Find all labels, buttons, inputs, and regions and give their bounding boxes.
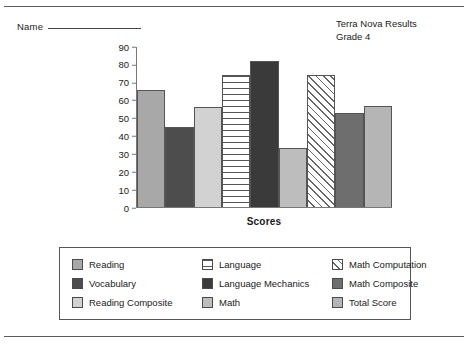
chart-bar xyxy=(194,107,222,207)
y-axis-tick-label: 50 xyxy=(118,114,132,124)
legend-label: Reading Composite xyxy=(89,298,172,308)
chart-bar xyxy=(165,127,193,207)
legend-swatch xyxy=(332,278,343,289)
name-write-in-line[interactable] xyxy=(48,28,141,29)
chart-plot-area: 0102030405060708090 xyxy=(136,47,392,208)
y-axis-tick-label: 90 xyxy=(118,42,132,52)
y-axis-tick-mark xyxy=(132,118,136,119)
y-axis-tick-mark xyxy=(132,100,136,101)
y-axis-tick-mark xyxy=(132,190,136,191)
legend-label: Math xyxy=(219,298,240,308)
bar-chart: 0102030405060708090 Scores xyxy=(0,40,468,230)
y-axis-tick: 60 xyxy=(118,96,136,106)
legend-label: Reading xyxy=(89,260,124,270)
y-axis-tick: 70 xyxy=(118,78,136,88)
chart-bar xyxy=(364,106,392,207)
legend-swatch xyxy=(72,297,83,308)
y-axis-tick-mark xyxy=(132,154,136,155)
y-axis-tick-label: 10 xyxy=(118,185,132,195)
chart-bar xyxy=(137,90,165,207)
legend-item: Total Score xyxy=(332,297,427,308)
legend-swatch xyxy=(72,278,83,289)
page-divider-top xyxy=(4,6,464,7)
legend-item: Math xyxy=(202,297,332,308)
y-axis-tick: 40 xyxy=(118,132,136,142)
legend-item: Math Computation xyxy=(332,259,427,270)
y-axis-tick-mark xyxy=(132,82,136,83)
y-axis-tick-mark xyxy=(132,64,136,65)
legend-item: Language Mechanics xyxy=(202,278,332,289)
chart-bars xyxy=(137,47,392,207)
legend-swatch xyxy=(72,259,83,270)
y-axis-tick-mark xyxy=(132,172,136,173)
y-axis-tick: 90 xyxy=(118,42,136,52)
y-axis-tick: 20 xyxy=(118,167,136,177)
chart-bar xyxy=(279,148,307,207)
y-axis-tick: 10 xyxy=(118,185,136,195)
name-label: Name xyxy=(17,21,43,32)
y-axis-tick-mark xyxy=(132,208,136,209)
y-axis-tick-mark xyxy=(132,136,136,137)
legend-item: Reading Composite xyxy=(72,297,202,308)
y-axis-tick-label: 80 xyxy=(118,60,132,70)
y-axis-tick: 80 xyxy=(118,60,136,70)
legend-item: Reading xyxy=(72,259,202,270)
y-axis-tick-label: 20 xyxy=(118,167,132,177)
chart-legend: ReadingLanguageMath ComputationVocabular… xyxy=(59,247,411,320)
legend-item: Math Composite xyxy=(332,278,427,289)
legend-label: Total Score xyxy=(349,298,397,308)
legend-label: Math Composite xyxy=(349,279,418,289)
legend-swatch xyxy=(332,259,343,270)
y-axis-tick-label: 60 xyxy=(118,96,132,106)
chart-bar xyxy=(335,113,363,207)
y-axis-tick-mark xyxy=(132,47,136,48)
legend-swatch xyxy=(202,297,213,308)
legend-label: Language xyxy=(219,260,261,270)
page-title-line1: Terra Nova Results xyxy=(336,17,452,30)
legend-swatch xyxy=(332,297,343,308)
chart-bar xyxy=(307,75,335,207)
page-divider-bottom xyxy=(4,336,464,337)
y-axis-tick: 30 xyxy=(118,150,136,160)
legend-item: Vocabulary xyxy=(72,278,202,289)
legend-label: Language Mechanics xyxy=(219,279,309,289)
legend-swatch xyxy=(202,259,213,270)
y-axis-tick-label: 40 xyxy=(118,132,132,142)
legend-swatch xyxy=(202,278,213,289)
legend-label: Math Computation xyxy=(349,260,427,270)
y-axis-tick-label: 0 xyxy=(124,203,132,213)
y-axis-tick-label: 70 xyxy=(118,78,132,88)
legend-item: Language xyxy=(202,259,332,270)
x-axis-line xyxy=(136,207,392,208)
y-axis-tick: 0 xyxy=(124,203,136,213)
chart-bar xyxy=(222,75,250,207)
y-axis-tick: 50 xyxy=(118,114,136,124)
chart-bar xyxy=(250,61,278,207)
x-axis-title: Scores xyxy=(136,216,392,227)
name-field: Name xyxy=(17,21,141,32)
legend-label: Vocabulary xyxy=(89,279,136,289)
y-axis-tick-label: 30 xyxy=(118,150,132,160)
